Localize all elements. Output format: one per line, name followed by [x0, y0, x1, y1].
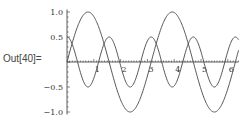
y-tick-label: −1.0	[44, 108, 63, 117]
y-tick-label: 1.0	[50, 8, 63, 17]
plot: 1.00.5−0.5−1.0123456	[0, 0, 240, 120]
y-tick-label: −0.5	[44, 83, 63, 92]
y-tick-label: 0.5	[50, 33, 63, 42]
